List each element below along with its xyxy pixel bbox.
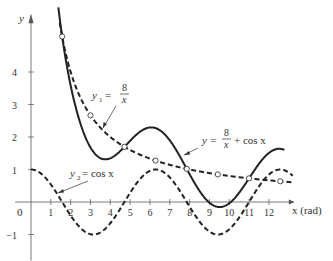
y-tick-label: 4 (12, 67, 17, 78)
intersection-marker (153, 158, 158, 163)
intersection-marker (184, 166, 189, 171)
y-tick-label: 1 (12, 165, 17, 176)
x-axis-label: x (rad) (292, 204, 322, 217)
x-tick-label: 5 (128, 207, 133, 218)
y-axis-arrow-icon (29, 14, 34, 24)
svg-text:8: 8 (122, 82, 127, 93)
svg-text:x: x (121, 94, 127, 105)
label-y-sum: y = 8 x + cos x (184, 127, 266, 155)
intersection-marker (215, 172, 220, 177)
y-axis-label: y (18, 12, 24, 24)
x-tick-label: 7 (167, 207, 172, 218)
svg-text:y: y (69, 167, 75, 179)
intersection-marker (246, 176, 251, 181)
curves (31, 7, 293, 234)
origin-label: 0 (17, 206, 23, 218)
label-y2: y 2 = cos x (58, 167, 114, 193)
svg-text:2: 2 (77, 174, 81, 182)
y-tick-label: 2 (12, 132, 17, 143)
x-tick-label: 10 (224, 207, 234, 218)
curve-1 (60, 23, 293, 183)
svg-text:y: y (91, 89, 97, 101)
svg-text:+ cos x: + cos x (234, 134, 266, 146)
intersection-marker (60, 34, 65, 39)
x-tick-label: 3 (88, 207, 93, 218)
svg-text:y =: y = (201, 134, 217, 146)
x-tick-label: 6 (147, 207, 152, 218)
intersection-markers (60, 34, 283, 184)
x-tick-label: 11 (244, 207, 254, 218)
intersection-marker (278, 179, 283, 184)
y-tick-label: 3 (12, 100, 17, 111)
intersection-marker (88, 113, 93, 118)
svg-text:= cos x: = cos x (82, 167, 114, 179)
x-tick-label: 12 (264, 207, 274, 218)
x-tick-label: 4 (108, 207, 113, 218)
label-y1: y 1 = 8 x (91, 82, 129, 128)
svg-text:=: = (105, 89, 111, 101)
x-tick-label: 1 (48, 207, 53, 218)
chart: 123456789101112−11234 y x (rad) 0 y 1 = … (0, 0, 333, 261)
y-tick-label: −1 (6, 230, 17, 241)
svg-text:x: x (223, 139, 229, 150)
x-tick-label: 9 (207, 207, 212, 218)
intersection-marker (122, 144, 127, 149)
svg-text:8: 8 (224, 127, 229, 138)
svg-text:1: 1 (99, 96, 103, 104)
